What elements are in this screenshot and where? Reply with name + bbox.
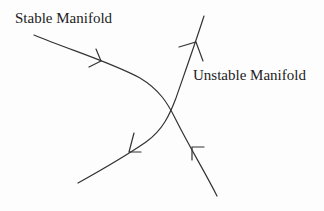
diagram-svg (0, 0, 324, 211)
saddle-diagram: Stable Manifold Unstable Manifold (0, 0, 324, 211)
unstable-manifold-curve (78, 16, 204, 183)
unstable-manifold-label: Unstable Manifold (193, 68, 306, 83)
stable-manifold-label: Stable Manifold (15, 11, 112, 26)
unstable-arrow-upper-icon (179, 42, 203, 61)
